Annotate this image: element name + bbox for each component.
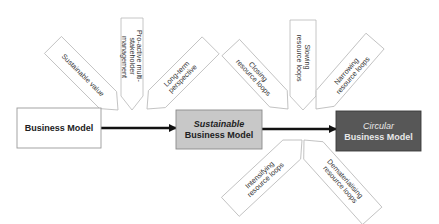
node-label-line-2: Business Model: [344, 132, 413, 142]
callout-sustainable-value: Sustainable value: [44, 36, 126, 118]
callout-closing-resource-loops: Closing resource loops: [222, 39, 297, 117]
node-label-line-2: Business Model: [185, 130, 254, 140]
callout-narrowing-resource-loops: Narrowing resource loops: [307, 33, 384, 117]
node-box: [336, 111, 421, 151]
callout-slowing-resource-loops: Slowing resource loops: [290, 20, 316, 110]
node-circular-business-model: Circular Business Model: [336, 111, 421, 151]
node-label-line-1: Sustainable: [194, 119, 245, 129]
callout-label: Pro-active multi- stakeholder management: [120, 30, 144, 84]
diagram-canvas: Sustainable value Pro-active multi- stak…: [0, 0, 439, 224]
node-business-model: Business Model: [17, 108, 101, 148]
callout-pro-active-stakeholder-management: Pro-active multi- stakeholder management: [120, 18, 144, 110]
node-label-line-1: Circular: [363, 121, 395, 131]
callout-long-term-perspective: Long-term perspective: [139, 37, 220, 118]
node-sustainable-business-model: Sustainable Business Model: [176, 110, 262, 149]
node-label: Business Model: [25, 123, 94, 133]
